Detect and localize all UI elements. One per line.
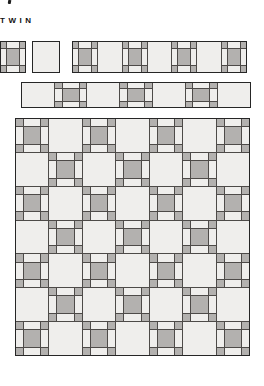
- pieced-block: [150, 187, 182, 220]
- patch-edge: [83, 127, 90, 144]
- plain-block: [87, 83, 119, 107]
- pieced-block: [83, 187, 115, 220]
- patch-corner: [183, 153, 190, 160]
- patch-corner: [49, 179, 56, 186]
- patch-edge: [91, 119, 107, 126]
- patch-edge: [128, 83, 144, 88]
- patch-edge: [24, 212, 40, 219]
- plain-block: [183, 322, 215, 355]
- patch-edge: [158, 254, 174, 261]
- patch-corner: [175, 212, 182, 219]
- patch-corner: [73, 42, 78, 48]
- patch-edge: [57, 153, 73, 160]
- patch-corner: [16, 254, 23, 261]
- patch-edge: [225, 254, 241, 261]
- patch-edge: [24, 280, 40, 287]
- patch-edge: [91, 254, 107, 261]
- patch-edge: [57, 179, 73, 186]
- patch-edge: [158, 322, 174, 329]
- patch-corner: [209, 314, 216, 321]
- patch-edge: [41, 330, 48, 347]
- block-row-a: [72, 41, 247, 73]
- patch-edge: [186, 89, 193, 101]
- patch-edge: [217, 263, 224, 280]
- plain-block: [217, 153, 249, 186]
- patch-corner: [73, 66, 78, 72]
- patch-corner: [16, 145, 23, 152]
- patch-corner: [183, 314, 190, 321]
- patch-corner: [241, 66, 246, 72]
- patch-edge: [217, 127, 224, 144]
- patch-corner: [41, 119, 48, 126]
- patch-edge: [124, 153, 140, 160]
- patch-edge: [63, 83, 79, 88]
- pieced-block: [116, 221, 148, 254]
- patch-corner: [116, 288, 123, 295]
- patch-edge: [41, 127, 48, 144]
- patch-corner: [55, 83, 62, 88]
- plain-block: [83, 221, 115, 254]
- plain-block: [217, 288, 249, 321]
- patch-corner: [116, 246, 123, 253]
- patch-center: [57, 161, 73, 178]
- patch-corner: [242, 212, 249, 219]
- patch-edge: [150, 263, 157, 280]
- patch-center: [158, 330, 174, 347]
- patch-corner: [41, 254, 48, 261]
- patch-corner: [175, 348, 182, 355]
- patch-edge: [24, 145, 40, 152]
- patch-center: [191, 229, 207, 246]
- patch-edge: [142, 229, 149, 246]
- patch-edge: [79, 42, 91, 48]
- patch-center: [191, 296, 207, 313]
- plain-block: [218, 83, 250, 107]
- patch-corner: [75, 221, 82, 228]
- patch-corner: [142, 314, 149, 321]
- patch-corner: [75, 153, 82, 160]
- patch-edge: [178, 66, 190, 72]
- patch-edge: [24, 322, 40, 329]
- patch-corner: [217, 280, 224, 287]
- patch-edge: [191, 153, 207, 160]
- patch-edge: [91, 187, 107, 194]
- patch-corner: [217, 322, 224, 329]
- patch-corner: [75, 314, 82, 321]
- patch-center: [91, 330, 107, 347]
- patch-corner: [142, 66, 147, 72]
- patch-edge: [222, 49, 227, 64]
- patch-center: [124, 229, 140, 246]
- patch-corner: [83, 187, 90, 194]
- patch-edge: [183, 296, 190, 313]
- patch-corner: [1, 66, 6, 72]
- patch-center: [79, 49, 91, 64]
- pieced-block: [186, 83, 218, 107]
- pieced-block: [16, 322, 48, 355]
- patch-center: [57, 296, 73, 313]
- patch-edge: [16, 127, 23, 144]
- patch-corner: [175, 145, 182, 152]
- patch-corner: [175, 254, 182, 261]
- patch-corner: [142, 288, 149, 295]
- patch-corner: [142, 246, 149, 253]
- patch-edge: [241, 49, 246, 64]
- patch-corner: [183, 288, 190, 295]
- patch-edge: [150, 330, 157, 347]
- patch-corner: [209, 288, 216, 295]
- patch-corner: [175, 280, 182, 287]
- patch-corner: [16, 187, 23, 194]
- patch-corner: [108, 119, 115, 126]
- patch-edge: [191, 49, 196, 64]
- patch-edge: [210, 89, 217, 101]
- pieced-block: [150, 322, 182, 355]
- pieced-block: [217, 254, 249, 287]
- patch-corner: [217, 145, 224, 152]
- patch-corner: [186, 102, 193, 107]
- patch-edge: [1, 49, 6, 64]
- pieced-block: [120, 83, 152, 107]
- patch-corner: [242, 322, 249, 329]
- patch-corner: [210, 102, 217, 107]
- patch-edge: [191, 246, 207, 253]
- patch-edge: [75, 229, 82, 246]
- patch-corner: [49, 314, 56, 321]
- plain-block: [16, 288, 48, 321]
